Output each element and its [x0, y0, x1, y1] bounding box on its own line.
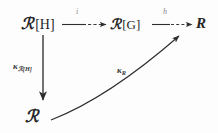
node-top-left-bracket: [H] [34, 17, 54, 32]
arrow-label-kappa-r: κR [117, 66, 126, 76]
kappa-subscript-diagonal: R [122, 69, 126, 76]
node-bottom-left: ℛ [25, 108, 39, 125]
node-top-right: R [196, 16, 206, 31]
kappa-subscript-vertical: ℛ[H] [18, 65, 32, 72]
node-top-middle-bracket: [G] [121, 17, 140, 32]
arrow-diagonal [51, 36, 179, 120]
node-top-left-script: ℛ [21, 14, 34, 33]
node-top-middle-script: ℛ [110, 16, 121, 32]
arrow-label-kappa-rh: κℛ[H] [13, 62, 32, 72]
node-top-middle: ℛ[G] [110, 17, 140, 31]
arrow-label-i: i [76, 8, 78, 16]
commutative-diagram: ℛ[H] ℛ[G] R ℛ i h κℛ[H] κR [0, 0, 218, 133]
arrow-label-h: h [163, 8, 167, 16]
node-bottom-left-script: ℛ [25, 106, 39, 126]
node-top-left: ℛ[H] [21, 16, 55, 32]
